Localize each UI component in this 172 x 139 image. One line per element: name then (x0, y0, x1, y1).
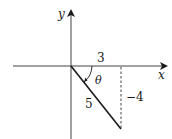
diagram-canvas: y x 3 θ 5 −4 (0, 0, 172, 139)
adjacent-length-label: 3 (97, 51, 105, 65)
angle-arc-arrowhead-icon (84, 78, 88, 83)
hypotenuse-length-label: 5 (85, 97, 93, 111)
y-axis-label: y (57, 7, 65, 21)
angle-theta-label: θ (95, 74, 102, 87)
x-axis-label: x (158, 68, 165, 82)
opposite-length-label: −4 (126, 90, 144, 104)
